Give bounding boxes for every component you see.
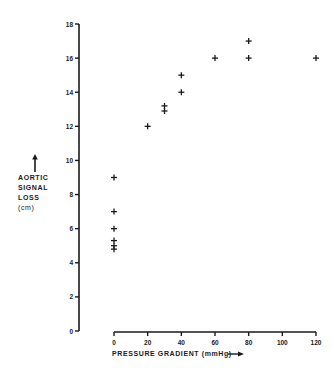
y-tick-label: 2: [69, 293, 73, 300]
y-axis: 024681012141618: [66, 21, 79, 335]
data-point: [111, 246, 117, 252]
y-label-line: SIGNAL: [18, 183, 48, 193]
y-label-line: (cm): [18, 203, 48, 213]
data-point: [246, 55, 252, 61]
y-tick-label: 12: [66, 123, 74, 130]
data-point: [111, 226, 117, 232]
data-points: [111, 38, 319, 252]
data-point: [162, 103, 168, 109]
x-tick-label: 0: [112, 339, 116, 346]
x-axis: 020406080100120: [112, 332, 322, 346]
x-tick-label: 120: [311, 339, 322, 346]
data-point: [162, 108, 168, 114]
arrow-up-icon: [31, 154, 39, 172]
y-tick-label: 18: [66, 21, 74, 28]
data-point: [178, 89, 184, 95]
y-tick-label: 10: [66, 157, 74, 164]
x-axis-label: PRESSURE GRADIENT (mmHg): [112, 350, 244, 358]
data-point: [111, 238, 117, 244]
y-tick-label: 0: [69, 328, 73, 335]
x-axis-title: PRESSURE GRADIENT (mmHg): [112, 350, 232, 358]
data-point: [313, 55, 319, 61]
y-tick-label: 8: [69, 191, 73, 198]
y-tick-label: 6: [69, 225, 73, 232]
data-point: [145, 123, 151, 129]
x-tick-label: 20: [144, 339, 152, 346]
y-tick-label: 4: [69, 259, 73, 266]
data-point: [178, 72, 184, 78]
y-label-line: AORTIC: [18, 173, 48, 183]
y-label-line: LOSS: [18, 193, 48, 203]
x-tick-label: 100: [277, 339, 288, 346]
data-point: [111, 175, 117, 181]
data-point: [212, 55, 218, 61]
x-tick-label: 40: [178, 339, 186, 346]
y-tick-label: 16: [66, 55, 74, 62]
data-point: [111, 209, 117, 215]
x-tick-label: 80: [245, 339, 253, 346]
plot-area: 024681012141618 020406080100120 PRESSURE…: [0, 0, 334, 374]
scatter-chart: 024681012141618 020406080100120 PRESSURE…: [0, 0, 334, 374]
data-point: [246, 38, 252, 44]
y-tick-label: 14: [66, 89, 74, 96]
x-tick-label: 60: [211, 339, 219, 346]
